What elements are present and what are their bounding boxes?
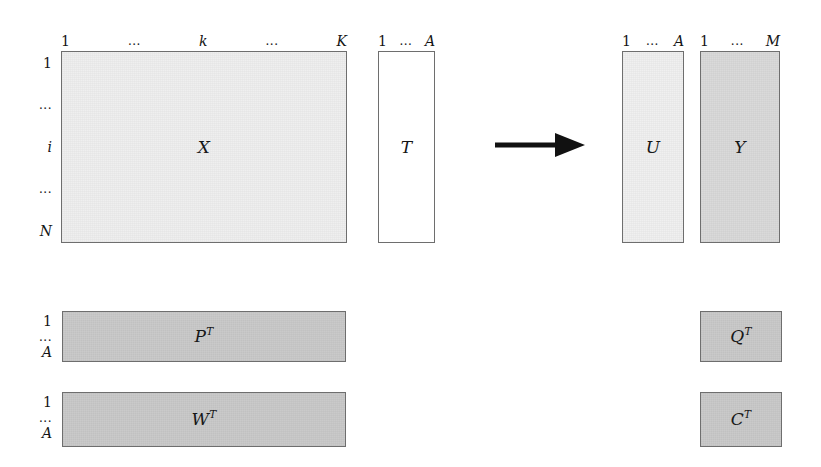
matrix-label-y: Y — [734, 139, 746, 156]
matrix-label-qt-base: Q — [730, 326, 744, 346]
transformation-arrow — [493, 130, 587, 160]
matrix-label-wt-transpose: T — [209, 408, 216, 420]
x-row-label-1: 1 — [43, 56, 52, 70]
matrix-label-qt: QT — [730, 328, 752, 345]
x-col-label-4: ... — [266, 35, 279, 47]
t-col-label-2: ... — [399, 35, 412, 47]
t-col-label-1: 1 — [378, 34, 387, 48]
x-row-label-5: N — [40, 224, 52, 238]
x-col-label-3: k — [199, 34, 207, 48]
matrix-block-y: Y — [700, 51, 780, 243]
x-column-labels: 1 ... k ... K — [61, 28, 347, 48]
wt-row-labels: 1 ... A — [22, 395, 52, 440]
wt-row-label-1: 1 — [43, 395, 52, 409]
matrix-label-wt-base: W — [191, 409, 209, 429]
matrix-label-pt-base: P — [194, 326, 206, 346]
matrix-label-pt-transpose: T — [206, 325, 213, 337]
matrix-block-qt: QT — [700, 311, 782, 362]
matrix-block-x: X — [61, 51, 347, 243]
matrix-block-t: T — [378, 51, 435, 243]
x-col-label-5: K — [337, 34, 347, 48]
u-col-label-1: 1 — [622, 34, 631, 48]
y-col-label-1: 1 — [700, 34, 709, 48]
matrix-block-pt: PT — [62, 311, 346, 362]
y-column-labels: 1 ... M — [700, 28, 780, 48]
x-row-label-3: i — [48, 140, 52, 154]
wt-row-label-3: A — [42, 426, 52, 440]
matrix-label-ct-transpose: T — [744, 408, 751, 420]
matrix-label-ct-base: C — [731, 409, 744, 429]
matrix-label-qt-transpose: T — [744, 325, 751, 337]
matrix-block-u: U — [622, 51, 684, 243]
y-col-label-3: M — [766, 34, 780, 48]
u-column-labels: 1 ... A — [622, 28, 684, 48]
matrix-label-t: T — [401, 139, 413, 156]
matrix-block-ct: CT — [700, 392, 782, 447]
y-col-label-2: ... — [731, 35, 744, 47]
t-column-labels: 1 ... A — [378, 28, 435, 48]
pt-row-labels: 1 ... A — [22, 314, 52, 359]
pt-row-label-2: ... — [39, 331, 52, 343]
matrix-label-u: U — [646, 139, 661, 156]
x-row-label-4: ... — [39, 183, 52, 195]
pt-row-label-1: 1 — [43, 314, 52, 328]
matrix-block-diagram: 1 ... k ... K 1 ... i ... N X 1 ... A T … — [0, 0, 821, 467]
u-col-label-3: A — [674, 34, 684, 48]
matrix-label-ct: CT — [731, 411, 752, 428]
matrix-block-wt: WT — [62, 392, 346, 447]
u-col-label-2: ... — [646, 35, 659, 47]
x-col-label-2: ... — [128, 35, 141, 47]
pt-row-label-3: A — [42, 345, 52, 359]
x-row-labels: 1 ... i ... N — [22, 56, 52, 238]
t-col-label-3: A — [425, 34, 435, 48]
matrix-label-x: X — [198, 139, 210, 156]
matrix-label-pt: PT — [194, 328, 213, 345]
x-row-label-2: ... — [39, 99, 52, 111]
matrix-label-wt: WT — [191, 411, 216, 428]
x-col-label-1: 1 — [61, 34, 70, 48]
wt-row-label-2: ... — [39, 412, 52, 424]
